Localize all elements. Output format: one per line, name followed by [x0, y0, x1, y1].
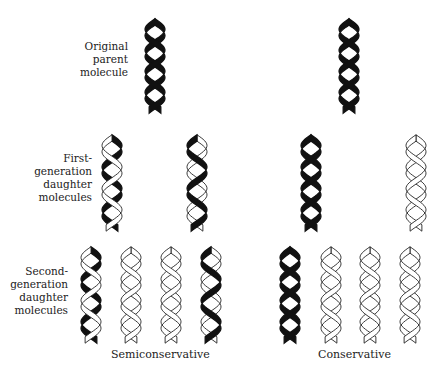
label-line: molecules [0, 304, 68, 317]
helix-semiconservative-gen2 [158, 246, 184, 344]
helix-semiconservative-gen2 [78, 246, 104, 344]
helix-semiconservative-parent [142, 18, 168, 114]
caption-conservative: Conservative [318, 348, 391, 361]
row-label-parent: Original parent molecule [52, 40, 128, 79]
helix-conservative-gen2 [277, 246, 303, 344]
helix-semiconservative-gen1 [99, 134, 125, 232]
helix-conservative-parent [336, 18, 362, 114]
row-label-first-generation: First- generation daughter molecules [12, 152, 92, 204]
label-line: Original [52, 40, 128, 53]
label-line: generation [12, 165, 92, 178]
caption-semiconservative: Semiconservative [111, 348, 210, 361]
row-label-second-generation: Second- generation daughter molecules [0, 265, 68, 317]
helix-semiconservative-gen1 [184, 134, 210, 232]
label-line: parent [52, 53, 128, 66]
helix-conservative-gen1 [298, 134, 324, 232]
label-line: molecule [52, 66, 128, 79]
helix-conservative-gen2 [318, 246, 344, 344]
label-line: generation [0, 278, 68, 291]
label-line: molecules [12, 191, 92, 204]
label-line: daughter [0, 291, 68, 304]
helix-conservative-gen2 [357, 246, 383, 344]
helix-semiconservative-gen2 [118, 246, 144, 344]
helix-conservative-gen2 [397, 246, 423, 344]
label-line: daughter [12, 178, 92, 191]
helix-semiconservative-gen2 [198, 246, 224, 344]
helix-conservative-gen1 [403, 134, 429, 232]
label-line: First- [12, 152, 92, 165]
label-line: Second- [0, 265, 68, 278]
